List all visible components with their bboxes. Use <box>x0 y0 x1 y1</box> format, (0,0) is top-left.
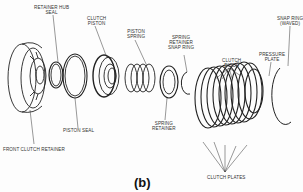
label-clutch-discs: CLUTCH DISCS <box>222 58 241 68</box>
piston-spring-part <box>125 64 155 92</box>
spring-retainer-part <box>160 66 178 98</box>
spring-retainer-snap-ring-part <box>181 72 190 94</box>
clutch-piston-part <box>93 55 119 97</box>
figure-caption: (b) <box>134 175 151 190</box>
label-snap-ring-waved: SNAP RING (WAVED) <box>277 16 303 26</box>
label-piston-spring: PISTON SPRING <box>127 29 145 39</box>
label-retainer-hub-seal: RETAINER HUB SEAL <box>34 5 69 15</box>
label-clutch-plates: CLUTCH PLATES <box>207 175 245 180</box>
label-clutch-piston: CLUTCH PISTON <box>87 16 106 26</box>
label-spring-retainer-snap-ring: SPRING RETAINER SNAP RING <box>168 35 194 50</box>
waved-snap-ring-part <box>272 68 291 124</box>
label-front-clutch-retainer: FRONT CLUTCH RETAINER <box>3 147 65 152</box>
piston-seal-part <box>63 54 87 98</box>
label-piston-seal: PISTON SEAL <box>63 128 94 133</box>
label-spring-retainer: SPRING RETAINER <box>152 121 176 131</box>
clutch-pack-part <box>195 62 263 128</box>
front-clutch-retainer-part <box>8 43 46 113</box>
label-pressure-plate: PRESSURE PLATE <box>259 52 285 62</box>
exploded-clutch-diagram: RETAINER HUB SEAL CLUTCH PISTON PISTON S… <box>0 0 303 192</box>
parts-illustration <box>0 0 303 192</box>
